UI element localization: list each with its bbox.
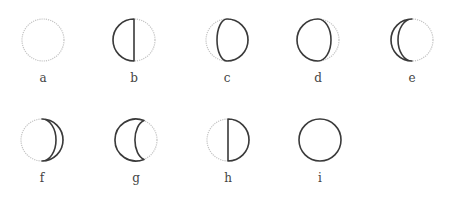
- left-concave-shape-icon: [106, 119, 166, 179]
- phase-g: g: [106, 119, 166, 197]
- right-crescent-shape-icon: [12, 119, 72, 179]
- phase-label: f: [12, 171, 72, 185]
- phase-label: i: [290, 171, 350, 185]
- phase-i: i: [290, 119, 350, 197]
- phase-label: a: [13, 71, 73, 85]
- circle-empty-icon: [13, 19, 73, 79]
- left-gibbous-shape-icon: [288, 19, 348, 79]
- phase-label: h: [198, 171, 258, 185]
- right-half-shape-icon: [198, 119, 258, 179]
- left-crescent-shape-icon: [382, 19, 442, 79]
- phase-a: a: [13, 19, 73, 99]
- moon-phase-diagram: a b c d e: [0, 0, 451, 197]
- phase-label: b: [104, 71, 164, 85]
- phase-d: d: [288, 19, 348, 99]
- phase-h: h: [198, 119, 258, 197]
- phase-c: c: [197, 19, 257, 99]
- phase-label: d: [288, 71, 348, 85]
- phase-b: b: [104, 19, 164, 99]
- right-gibbous-shape-icon: [197, 19, 257, 79]
- phase-e: e: [382, 19, 442, 99]
- phase-f: f: [12, 119, 72, 197]
- full-circle-shape-icon: [290, 119, 350, 179]
- phase-label: e: [382, 71, 442, 85]
- left-half-shape-icon: [104, 19, 164, 79]
- phase-label: c: [197, 71, 257, 85]
- phase-label: g: [106, 171, 166, 185]
